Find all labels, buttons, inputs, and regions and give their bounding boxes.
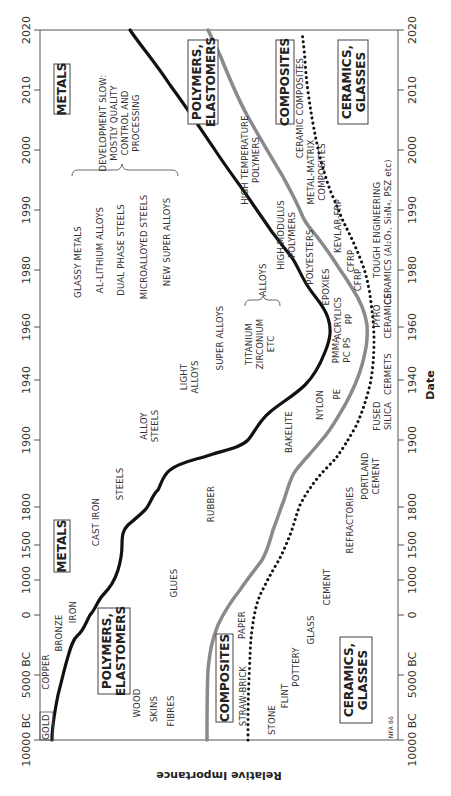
svg-text:PE: PE [332, 389, 342, 400]
svg-text:METAL-MATRIX: METAL-MATRIX [306, 139, 316, 204]
svg-text:2020: 2020 [406, 16, 419, 44]
svg-text:REFRACTORIES: REFRACTORIES [345, 487, 355, 554]
svg-text:PMMA: PMMA [331, 337, 341, 363]
svg-text:PC PS: PC PS [342, 337, 352, 362]
svg-text:MOSTLY QUALITY: MOSTLY QUALITY [109, 85, 119, 161]
materials-evolution-chart: 2020 2010 2000 1990 1980 1960 1940 1900 … [0, 0, 451, 796]
svg-text:CERAMICS,: CERAMICS, [342, 643, 356, 717]
svg-text:POLYMERS,: POLYMERS, [190, 44, 204, 120]
svg-text:COMPOSITES: COMPOSITES [317, 143, 327, 201]
svg-text:1990: 1990 [406, 196, 419, 224]
svg-text:BAKELITE: BAKELITE [284, 411, 294, 453]
svg-text:ELASTOMERS: ELASTOMERS [204, 37, 218, 127]
svg-text:GLASS: GLASS [306, 615, 316, 644]
svg-text:TOUGH ENGINEERING: TOUGH ENGINEERING [372, 182, 382, 279]
svg-text:1000: 1000 [20, 566, 33, 594]
svg-text:PORTLAND: PORTLAND [360, 452, 370, 500]
svg-text:HIGH TEMPERATURE: HIGH TEMPERATURE [240, 115, 250, 205]
box-polymers-bottom: POLYMERS, ELASTOMERS [98, 606, 130, 696]
right-tick-labels: 2020 2010 2000 1990 1980 1960 1940 1900 … [406, 16, 419, 767]
svg-text:2000: 2000 [20, 136, 33, 164]
svg-text:STONE: STONE [267, 705, 277, 735]
svg-text:GLASSES: GLASSES [356, 650, 370, 710]
svg-text:COMPOSITES: COMPOSITES [218, 634, 232, 722]
svg-text:METALS: METALS [55, 520, 69, 573]
svg-text:PROCESSING: PROCESSING [131, 94, 141, 151]
svg-text:FLINT: FLINT [280, 683, 290, 708]
svg-text:1990: 1990 [20, 196, 33, 224]
svg-text:FIBRES: FIBRES [166, 695, 176, 726]
svg-text:METALS: METALS [55, 63, 69, 116]
box-metals-top: METALS [54, 63, 70, 116]
svg-text:NYLON: NYLON [315, 390, 325, 420]
svg-text:STRAW-BRICK: STRAW-BRICK [238, 666, 248, 727]
box-ceramics-bottom: CERAMICS, GLASSES [340, 637, 372, 723]
svg-text:1980: 1980 [20, 256, 33, 284]
svg-text:AL-LITHIUM ALLOYS: AL-LITHIUM ALLOYS [95, 207, 105, 293]
box-polymers-top: POLYMERS, ELASTOMERS [188, 37, 218, 127]
svg-text:PAPER: PAPER [237, 611, 247, 639]
svg-text:1940: 1940 [20, 366, 33, 394]
svg-text:GLASSES: GLASSES [354, 52, 368, 112]
svg-text:POTTERY: POTTERY [291, 647, 301, 687]
svg-text:CERAMICS (Al₂O₃, Si₃N₄, PSZ et: CERAMICS (Al₂O₃, Si₃N₄, PSZ etc) [383, 159, 393, 304]
svg-text:POLYESTERS: POLYESTERS [305, 229, 315, 284]
svg-text:2000: 2000 [406, 136, 419, 164]
importance-axis-title: Relative Importance [156, 769, 282, 782]
svg-text:1900: 1900 [406, 426, 419, 454]
svg-text:5000 BC: 5000 BC [20, 651, 33, 698]
svg-text:COPPER: COPPER [41, 654, 51, 689]
svg-text:1000: 1000 [406, 566, 419, 594]
svg-text:RUBBER: RUBBER [206, 486, 216, 522]
svg-text:IRON: IRON [68, 601, 78, 623]
svg-text:SKINS: SKINS [149, 696, 159, 722]
svg-text:CERAMICS,: CERAMICS, [340, 45, 354, 119]
svg-text:ELASTOMERS: ELASTOMERS [114, 606, 128, 696]
svg-text:PP: PP [344, 314, 354, 325]
svg-text:1940: 1940 [406, 366, 419, 394]
svg-text:1800: 1800 [20, 493, 33, 521]
svg-text:POLYMERS: POLYMERS [287, 212, 297, 258]
svg-text:ALLOY: ALLOY [139, 412, 149, 440]
svg-text:STEELS: STEELS [150, 410, 160, 443]
svg-text:2010: 2010 [20, 76, 33, 104]
svg-text:1500: 1500 [20, 531, 33, 559]
svg-text:MICROALLOYED STEELS: MICROALLOYED STEELS [139, 195, 149, 300]
svg-text:LIGHT: LIGHT [179, 363, 189, 390]
svg-text:2020: 2020 [20, 16, 33, 44]
svg-text:CFRP: CFRP [346, 250, 356, 273]
svg-text:FUSED: FUSED [372, 401, 382, 431]
svg-text:CERAMIC COMPOSITES: CERAMIC COMPOSITES [295, 58, 305, 158]
svg-text:COMPOSITES: COMPOSITES [278, 38, 292, 126]
svg-text:SUPER ALLOYS: SUPER ALLOYS [215, 306, 225, 371]
svg-text:EPOXIES: EPOXIES [321, 268, 331, 305]
svg-text:0: 0 [20, 612, 33, 619]
svg-text:SILICA: SILICA [383, 402, 393, 430]
svg-text:DUAL PHASE STEELS: DUAL PHASE STEELS [116, 204, 126, 296]
svg-text:NEW SUPER ALLOYS: NEW SUPER ALLOYS [162, 198, 172, 287]
svg-text:ETC: ETC [266, 336, 276, 353]
svg-text:KEVLAR-FRP: KEVLAR-FRP [333, 199, 343, 253]
svg-text:BRONZE: BRONZE [54, 614, 64, 651]
svg-text:PYRO: PYRO [372, 304, 382, 328]
svg-text:1980: 1980 [406, 256, 419, 284]
svg-text:ZIRCONIUM: ZIRCONIUM [255, 319, 265, 370]
svg-text:STEELS: STEELS [115, 468, 125, 501]
svg-text:WOOD: WOOD [132, 688, 142, 717]
svg-text:CEMENT: CEMENT [322, 568, 332, 605]
svg-text:1960: 1960 [406, 313, 419, 341]
alloys-brace [245, 296, 280, 306]
svg-text:CONTROL AND: CONTROL AND [120, 90, 130, 155]
svg-text:1960: 1960 [20, 313, 33, 341]
box-composites-bottom: COMPOSITES [216, 634, 233, 722]
svg-text:CAST IRON: CAST IRON [91, 498, 101, 546]
date-axis-title: Date [424, 370, 437, 399]
svg-text:ACRYLICS: ACRYLICS [333, 297, 343, 339]
svg-text:TITANIUM: TITANIUM [244, 323, 254, 366]
svg-text:0: 0 [406, 612, 419, 619]
svg-text:ALLOYS: ALLOYS [190, 361, 200, 394]
box-composites-top: COMPOSITES [276, 38, 294, 126]
svg-text:GOLD: GOLD [41, 714, 51, 740]
svg-text:GLUES: GLUES [169, 569, 179, 598]
svg-text:1900: 1900 [20, 426, 33, 454]
